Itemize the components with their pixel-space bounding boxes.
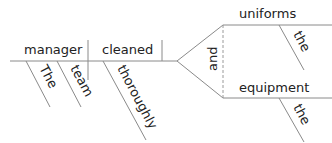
modifier-team: team — [67, 62, 96, 99]
conjunction-word: and — [205, 47, 220, 71]
verb-word: cleaned — [102, 42, 153, 57]
subject-word: manager — [24, 42, 83, 57]
modifier-thoroughly: thoroughly — [114, 62, 160, 131]
object-uniforms: uniforms — [239, 6, 296, 21]
object-equipment: equipment — [239, 80, 309, 95]
modifier-upper-the: the — [290, 28, 313, 54]
sentence-diagram: manager cleaned The team thoroughly and … — [0, 0, 332, 143]
